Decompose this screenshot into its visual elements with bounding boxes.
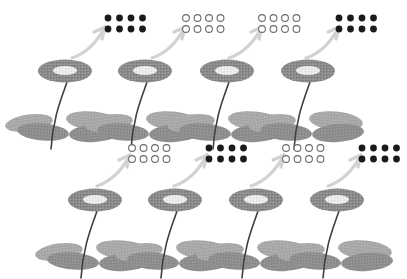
seed-dot-filled [217,156,224,163]
seed-dot-open [163,145,170,152]
seed-dot-open [317,145,324,152]
seed-dot-open [293,15,300,22]
seed-dot-open [163,156,170,163]
seed-dot-open [294,156,301,163]
plant-seed-diagram [0,0,407,279]
seed-dot-filled [206,145,213,152]
seed-dot-filled [139,15,146,22]
seed-dot-open [282,26,289,33]
seed-dot-open [217,26,224,33]
seed-dot-filled [105,15,112,22]
seed-dot-filled [128,15,135,22]
seed-dot-open [293,26,300,33]
seed-dot-open [270,26,277,33]
seed-dot-open [259,26,266,33]
seed-dot-filled [359,15,366,22]
seed-dot-open [306,156,313,163]
seed-dot-open [194,15,201,22]
seed-dot-open [317,156,324,163]
seed-dot-filled [240,156,247,163]
seed-dot-open [183,15,190,22]
seed-dot-open [306,145,313,152]
seed-dot-open [270,15,277,22]
seed-dot-open [194,26,201,33]
seed-dot-open [129,145,136,152]
seed-dot-filled [128,26,135,33]
seed-dot-open [283,145,290,152]
seed-dot-filled [382,145,389,152]
figure-root: Flowering plants with seed-count groups [0,0,407,279]
seed-dot-open [152,145,159,152]
seed-dot-filled [359,145,366,152]
seed-dot-open [140,145,147,152]
seed-dot-filled [116,26,123,33]
seed-dot-open [294,145,301,152]
seed-dot-open [140,156,147,163]
seed-dot-filled [370,15,377,22]
seed-dot-filled [139,26,146,33]
seed-dot-filled [393,156,400,163]
seed-dot-filled [393,145,400,152]
seed-dot-open [259,15,266,22]
seed-dot-open [217,15,224,22]
seed-dot-open [283,156,290,163]
seed-dot-filled [206,156,213,163]
seed-dot-filled [359,156,366,163]
seed-dot-filled [336,26,343,33]
seed-dot-open [129,156,136,163]
seed-dot-filled [217,145,224,152]
seed-dot-open [206,15,213,22]
seed-dot-open [282,15,289,22]
seed-dot-filled [382,156,389,163]
seed-dot-filled [240,145,247,152]
seed-dot-filled [370,145,377,152]
seed-dot-filled [105,26,112,33]
seed-dot-open [206,26,213,33]
seed-dot-filled [336,15,343,22]
seed-dot-filled [116,15,123,22]
seed-dot-filled [347,26,354,33]
seed-dot-filled [229,156,236,163]
seed-dot-filled [359,26,366,33]
seed-dot-open [183,26,190,33]
seed-dot-filled [229,145,236,152]
seed-dot-filled [347,15,354,22]
seed-dot-filled [370,26,377,33]
seed-dot-open [152,156,159,163]
seed-dot-filled [370,156,377,163]
